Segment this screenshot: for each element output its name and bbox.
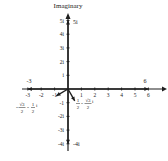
point-vectors <box>28 21 149 144</box>
imaginary-axis-label: Imaginary <box>54 2 83 10</box>
point-label-5i: 5i <box>73 19 78 25</box>
point-label-6: 6 <box>144 78 147 84</box>
y-tick-label: -4i <box>58 141 65 147</box>
vector-arrowhead-icon <box>66 140 70 144</box>
y-tick-label: i <box>62 72 64 78</box>
y-tick-label: 5i <box>60 18 65 24</box>
vector-arrowhead-icon <box>66 21 70 25</box>
x-tick-label: -3 <box>26 92 31 98</box>
svg-text:√3: √3 <box>19 102 25 107</box>
x-tick-label: 6 <box>147 92 150 98</box>
y-tick-label: -2i <box>58 113 65 119</box>
svg-text:i: i <box>92 99 94 104</box>
y-tick-label: -1 <box>59 100 64 106</box>
real-axis-arrow-icon <box>162 87 167 92</box>
svg-text:2: 2 <box>77 105 80 110</box>
svg-text:1: 1 <box>32 102 35 107</box>
point-label-neg4i: -4i <box>73 141 80 147</box>
x-tick-label: 2 <box>93 92 96 98</box>
y-tick-label: 2i <box>60 59 65 65</box>
point-label-neg-sqrt3-over-2-minus-half-i: - √3 2 - 1 2 i <box>16 102 38 114</box>
vector-arrowhead-icon <box>144 87 148 91</box>
svg-text:√3: √3 <box>85 98 91 103</box>
y-tick-label: 3i <box>60 45 65 51</box>
x-tick-label: 1 <box>80 92 83 98</box>
x-tick-label: 3 <box>107 92 110 98</box>
svg-text:-: - <box>16 104 18 110</box>
x-tick-label: -2 <box>39 92 44 98</box>
svg-text:2: 2 <box>87 105 90 110</box>
svg-text:2: 2 <box>32 109 35 114</box>
point-label-neg3: -3 <box>27 78 32 84</box>
y-tick-label: 4i <box>60 31 65 37</box>
svg-text:2: 2 <box>21 109 24 114</box>
y-tick-label: -3i <box>58 127 65 133</box>
svg-text:-: - <box>27 104 29 110</box>
point-label-half-minus-sqrt3-over-2-i: 1 2 - √3 2 i <box>76 98 94 110</box>
imaginary-axis-arrow-icon <box>66 13 71 19</box>
svg-text:i: i <box>36 103 38 108</box>
svg-text:-: - <box>81 100 83 106</box>
complex-plane-diagram: -3-2-1123456 5i4i3i2ii-1-2i-3i-4i Imagin… <box>0 0 168 161</box>
svg-text:1: 1 <box>77 98 80 103</box>
vector-arrowhead-icon <box>28 87 32 91</box>
x-tick-label: 5 <box>134 92 137 98</box>
x-tick-label: 4 <box>120 92 123 98</box>
x-tick-label: -1 <box>52 92 57 98</box>
